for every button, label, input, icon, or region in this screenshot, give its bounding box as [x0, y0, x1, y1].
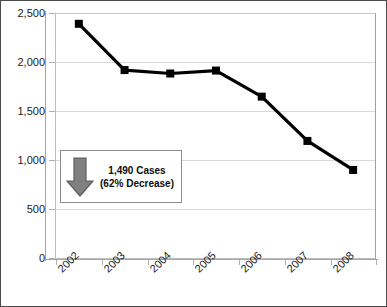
y-tick-mark-500 [49, 209, 55, 210]
y-tick-mark-1000 [49, 160, 55, 161]
gridline-2000 [56, 62, 375, 63]
y-tick-label-500: 500 [27, 204, 45, 215]
decrease-callout-text: 1,490 Cases (62% Decrease) [95, 164, 181, 190]
plot-area [55, 13, 376, 259]
y-tick-mark-2500 [49, 13, 55, 14]
x-tick-mark-7 [376, 260, 377, 265]
down-arrow-icon [65, 156, 95, 198]
decrease-callout: 1,490 Cases (62% Decrease) [60, 150, 182, 203]
y-tick-mark-2000 [49, 62, 55, 63]
y-tick-label-2500: 2,500 [17, 8, 45, 19]
decrease-callout-line1: 1,490 Cases [95, 164, 179, 177]
y-tick-label-1000: 1,000 [17, 155, 45, 166]
gridline-500 [56, 209, 375, 210]
gridline-1500 [56, 111, 375, 112]
y-tick-mark-1500 [49, 111, 55, 112]
y-tick-label-2000: 2,000 [17, 57, 45, 68]
y-tick-label-1500: 1,500 [17, 106, 45, 117]
y-axis-line [45, 11, 46, 261]
decrease-callout-line2: (62% Decrease) [95, 177, 179, 190]
chart-figure: 2,500 2,000 1,500 1,000 500 0 2002 2003 … [0, 0, 387, 307]
